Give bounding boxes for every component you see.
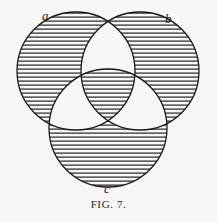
set-label-b: b: [165, 12, 172, 25]
set-label-a: a: [42, 9, 49, 22]
figure-caption: FIG. 7.: [0, 198, 217, 210]
set-label-c: c: [104, 182, 110, 195]
figure-container: a b c FIG. 7.: [0, 0, 217, 222]
